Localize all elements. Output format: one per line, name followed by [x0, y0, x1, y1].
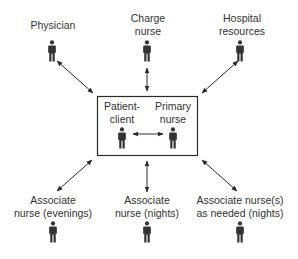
label-assoc-evenings: Associate nurse (evenings) — [14, 194, 92, 220]
label-line: nurse (nights) — [115, 207, 179, 220]
label-line: Patient- — [104, 100, 140, 113]
label-line: nurse — [131, 25, 165, 38]
label-line: Hospital — [219, 12, 265, 25]
label-physician: Physician — [31, 19, 76, 32]
person-icon-assoc-needed — [236, 221, 244, 242]
person-icon-assoc-evenings — [49, 221, 57, 242]
label-line: Associate — [115, 194, 179, 207]
person-icon-assoc-nights — [143, 221, 151, 242]
label-line: as needed (nights) — [197, 207, 284, 220]
arrow-hospital-resources — [202, 61, 238, 93]
label-line: nurse (evenings) — [14, 207, 92, 220]
person-icon-physician — [48, 40, 56, 61]
label-primary-nurse: Primary nurse — [155, 100, 191, 126]
label-line: Associate — [14, 194, 92, 207]
arrow-physician — [57, 61, 93, 93]
label-patient-client: Patient- client — [104, 100, 140, 126]
label-line: resources — [219, 25, 265, 38]
person-icon-patient — [118, 127, 126, 148]
label-line: Associate nurse(s) — [197, 194, 284, 207]
arrow-assoc-evenings — [57, 160, 92, 191]
label-line: Primary — [155, 100, 191, 113]
label-line: nurse — [155, 113, 191, 126]
person-icon-charge-nurse — [143, 40, 151, 61]
label-charge-nurse: Charge nurse — [131, 12, 165, 38]
label-assoc-nights: Associate nurse (nights) — [115, 194, 179, 220]
label-assoc-needed: Associate nurse(s) as needed (nights) — [197, 194, 284, 220]
person-icon-hospital — [236, 40, 244, 61]
arrow-assoc-needed — [202, 160, 237, 191]
diagram-canvas — [0, 0, 298, 259]
label-line: client — [104, 113, 140, 126]
label-line: Charge — [131, 12, 165, 25]
label-hospital-resources: Hospital resources — [219, 12, 265, 38]
label-line: Physician — [31, 19, 76, 32]
person-icon-primary-nurse — [169, 127, 177, 148]
